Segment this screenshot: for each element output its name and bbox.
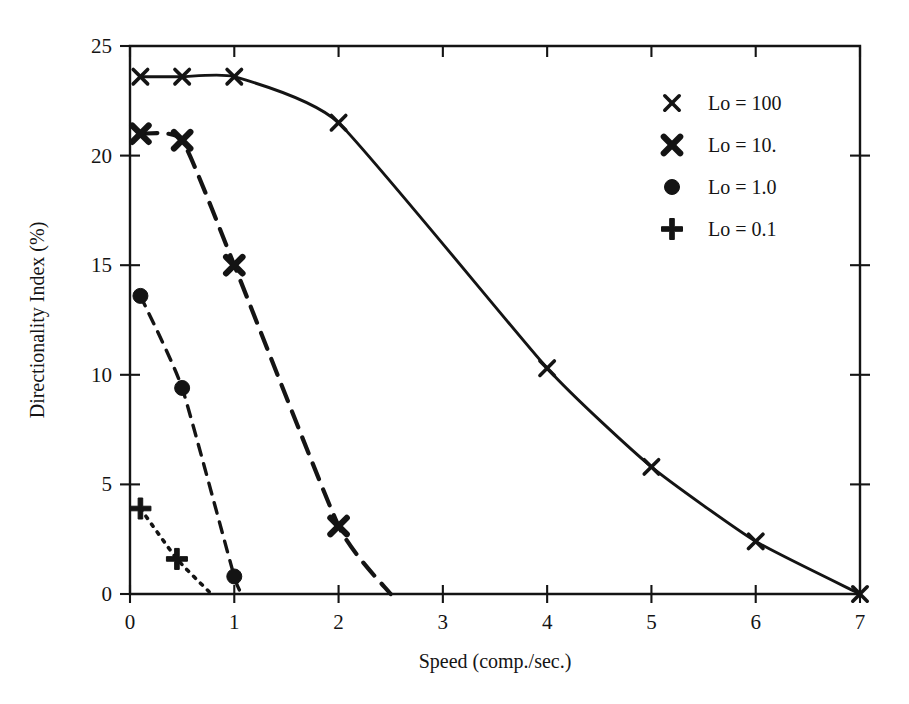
y-axis-title: Directionality Index (%)	[26, 222, 49, 419]
x-axis-title: Speed (comp./sec.)	[419, 650, 572, 673]
legend-label: Lo = 0.1	[708, 218, 777, 240]
x-tick-label: 6	[750, 610, 761, 634]
data-point-marker-circle	[227, 569, 242, 584]
directionality-index-vs-speed-chart: 01234567 0510152025 Lo = 100Lo = 10.Lo =…	[0, 0, 909, 704]
y-tick-label: 5	[102, 472, 113, 496]
chart-figure: 01234567 0510152025 Lo = 100Lo = 10.Lo =…	[0, 0, 909, 704]
x-tick-label: 1	[229, 610, 240, 634]
x-tick-label: 0	[125, 610, 136, 634]
y-tick-label: 25	[91, 34, 112, 58]
legend-label: Lo = 1.0	[708, 176, 777, 198]
legend-label: Lo = 100	[708, 92, 782, 114]
y-tick-label: 0	[102, 582, 113, 606]
x-tick-label: 7	[855, 610, 866, 634]
y-tick-label: 20	[91, 144, 112, 168]
y-tick-label: 10	[91, 363, 112, 387]
x-tick-label: 2	[333, 610, 344, 634]
x-tick-label: 3	[438, 610, 449, 634]
data-point-marker-circle	[665, 180, 680, 195]
x-tick-label: 5	[646, 610, 657, 634]
y-tick-label: 15	[91, 253, 112, 277]
legend-label: Lo = 10.	[708, 134, 777, 156]
data-point-marker-circle	[175, 380, 190, 395]
data-point-marker-circle	[133, 288, 148, 303]
x-tick-label: 4	[542, 610, 553, 634]
